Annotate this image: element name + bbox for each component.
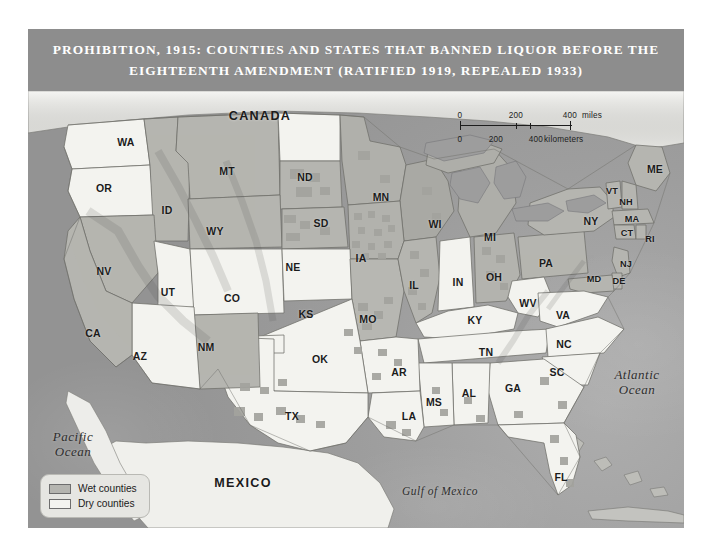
state-ct (614, 225, 636, 239)
scale-miles-tick-0: 0 (458, 111, 463, 120)
legend-swatch-dry-icon (49, 499, 71, 509)
state-in (438, 237, 474, 311)
page-title-line-1: PROHIBITION, 1915: COUNTIES AND STATES T… (53, 39, 659, 60)
state-ne (282, 207, 348, 249)
map-title-banner: PROHIBITION, 1915: COUNTIES AND STATES T… (28, 29, 684, 91)
legend-label-dry: Dry counties (78, 498, 135, 509)
scale-miles-unit: miles (582, 111, 602, 120)
state-nd (278, 113, 340, 161)
state-mo (350, 259, 404, 341)
scale-km-tick-2: 400 (529, 135, 543, 144)
state-ma (612, 209, 654, 225)
legend-label-wet: Wet counties (78, 483, 137, 494)
scale-km-tick-1: 200 (489, 135, 503, 144)
scale-tick-km-mid (530, 123, 531, 129)
state-mt (176, 113, 280, 199)
map-canvas: 0 200 400 miles 0 200 400 kilometers WAO… (28, 91, 684, 528)
page-title-line-2: EIGHTEENTH AMENDMENT (RATIFIED 1919, REP… (129, 60, 583, 81)
state-il (398, 237, 440, 323)
state-or (68, 165, 154, 217)
state-nj (612, 247, 630, 277)
state-md (568, 275, 614, 293)
scale-miles-tick-1: 200 (509, 111, 523, 120)
legend-item-dry: Dry counties (49, 496, 137, 511)
scale-bar-miles-labels: 0 200 400 miles (460, 107, 590, 120)
scale-bar: 0 200 400 miles 0 200 400 kilometers (460, 107, 590, 144)
state-ks (282, 249, 352, 301)
scale-km-tick-0: 0 (458, 135, 463, 144)
state-ri (636, 225, 646, 239)
state-me (628, 145, 670, 191)
scale-bar-line (460, 121, 590, 130)
state-vt (606, 181, 622, 209)
state-la (368, 391, 424, 441)
legend-swatch-wet-icon (49, 484, 71, 494)
map-page: PROHIBITION, 1915: COUNTIES AND STATES T… (0, 0, 712, 557)
legend-item-wet: Wet counties (49, 481, 137, 496)
scale-bar-km-labels: 0 200 400 kilometers (460, 131, 590, 144)
scale-miles-tick-2: 400 (563, 111, 577, 120)
state-nm (194, 313, 260, 389)
map-geometry (28, 91, 684, 528)
scale-tick-start (460, 121, 461, 130)
scale-tick-end (570, 121, 571, 130)
state-ms (418, 363, 454, 427)
map-legend: Wet counties Dry counties (40, 474, 150, 518)
scale-km-unit: kilometers (544, 135, 583, 144)
state-nh (622, 181, 638, 209)
state-mn (340, 115, 406, 205)
caribbean-islands (564, 437, 684, 523)
scale-tick-mid (516, 123, 517, 129)
state-ar (360, 337, 420, 393)
state-az (132, 303, 200, 389)
state-wa (64, 119, 150, 169)
state-sd (280, 161, 342, 209)
